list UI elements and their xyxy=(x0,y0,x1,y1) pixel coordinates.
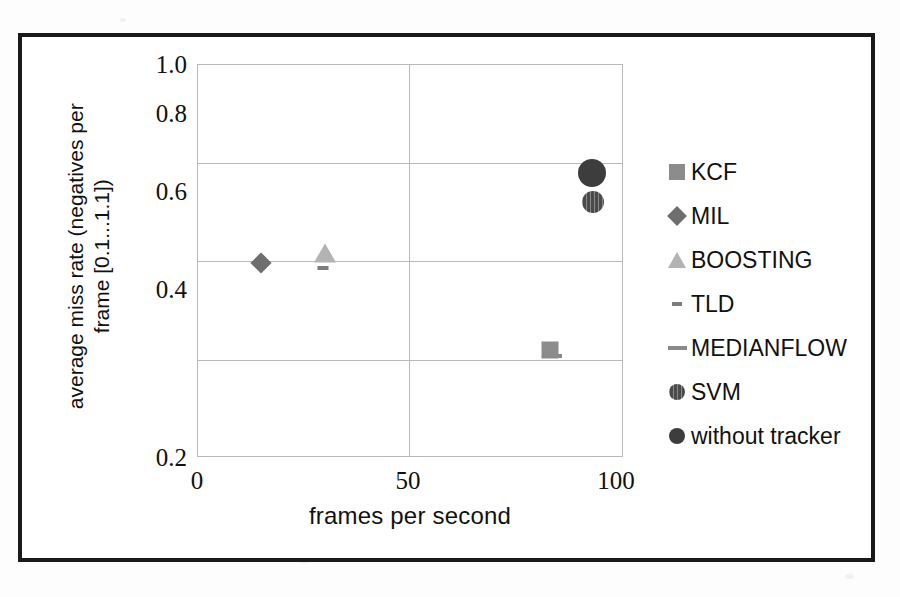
y-tick-label: 0.6 xyxy=(125,179,187,204)
legend-label: SVM xyxy=(691,381,741,404)
circle-pattern-icon xyxy=(663,379,691,405)
data-point-tld[interactable] xyxy=(318,266,329,270)
legend-item-without-tracker[interactable]: without tracker xyxy=(663,414,868,458)
y-axis-title-line1: average miss rate (negatives per xyxy=(63,91,89,421)
legend-item-boosting[interactable]: BOOSTING xyxy=(663,238,868,282)
x-tick-label: 50 xyxy=(373,468,443,493)
data-point-medianflow[interactable] xyxy=(542,354,562,358)
gridline-y-0.4 xyxy=(198,360,622,361)
legend-item-mil[interactable]: MIL xyxy=(663,194,868,238)
legend-label: MIL xyxy=(691,205,729,228)
circle-icon xyxy=(663,423,691,449)
y-axis-title-line2: frame [0.1...1.1]) xyxy=(89,91,115,421)
data-point-mil[interactable] xyxy=(250,252,271,273)
triangle-icon xyxy=(663,247,691,273)
y-axis-title: average miss rate (negatives per frame [… xyxy=(63,91,116,421)
scan-speckle xyxy=(845,574,854,579)
legend-item-tld[interactable]: TLD xyxy=(663,282,868,326)
figure-root: 1.0 0.8 0.6 0.4 0.2 0 50 100 frames per … xyxy=(0,0,900,597)
y-tick-label: 0.8 xyxy=(125,101,187,126)
legend-label: TLD xyxy=(691,293,734,316)
plot-area xyxy=(197,64,623,457)
data-point-without-tracker[interactable] xyxy=(578,159,606,187)
legend-item-svm[interactable]: SVM xyxy=(663,370,868,414)
x-axis-title: frames per second xyxy=(197,502,623,530)
legend-item-kcf[interactable]: KCF xyxy=(663,150,868,194)
legend-label: MEDIANFLOW xyxy=(691,337,847,360)
scan-speckle xyxy=(120,18,126,22)
dash-short-icon xyxy=(663,291,691,317)
x-tick-label: 0 xyxy=(162,468,232,493)
legend-label: KCF xyxy=(691,161,737,184)
data-point-svm[interactable] xyxy=(582,191,604,213)
x-tick-label: 100 xyxy=(581,468,651,493)
legend: KCF MIL BOOSTING TLD MEDIANFLOW xyxy=(663,150,868,458)
legend-label: without tracker xyxy=(691,425,841,448)
gridline-y-0.8 xyxy=(198,163,622,164)
y-tick-label: 0.2 xyxy=(125,445,187,470)
dash-long-icon xyxy=(663,335,691,361)
legend-item-medianflow[interactable]: MEDIANFLOW xyxy=(663,326,868,370)
diamond-icon xyxy=(663,203,691,229)
data-point-boosting[interactable] xyxy=(314,244,336,263)
gridline-x-50 xyxy=(409,65,410,456)
square-icon xyxy=(663,159,691,185)
y-tick-label: 1.0 xyxy=(125,52,187,77)
legend-label: BOOSTING xyxy=(691,249,812,272)
y-tick-label: 0.4 xyxy=(125,277,187,302)
